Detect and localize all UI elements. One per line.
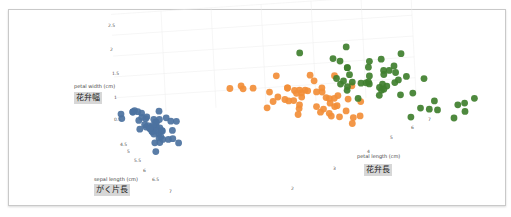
data-point-versicolor[interactable] (311, 77, 318, 84)
data-point-setosa[interactable] (158, 127, 165, 134)
data-point-versicolor[interactable] (250, 85, 257, 92)
data-point-versicolor[interactable] (345, 96, 352, 103)
data-point-setosa[interactable] (129, 109, 136, 116)
data-point-virginica[interactable] (392, 69, 399, 76)
data-point-versicolor[interactable] (273, 72, 280, 79)
gridline-y-5 (411, 0, 416, 94)
data-point-versicolor[interactable] (296, 101, 303, 108)
y-tick-label: 7 (428, 117, 431, 122)
data-point-setosa[interactable] (169, 135, 176, 142)
y-axis-label: petal length (cm) (357, 153, 400, 160)
data-point-versicolor[interactable] (350, 114, 357, 121)
data-point-setosa[interactable] (118, 115, 125, 122)
data-point-virginica[interactable] (403, 73, 410, 80)
data-point-versicolor[interactable] (331, 103, 338, 110)
data-point-versicolor[interactable] (313, 103, 320, 110)
data-point-virginica[interactable] (378, 56, 385, 63)
data-point-virginica[interactable] (397, 91, 404, 98)
data-point-versicolor[interactable] (290, 97, 297, 104)
x-tick-label: 4.5 (120, 142, 127, 147)
data-point-virginica[interactable] (296, 50, 303, 57)
data-point-versicolor[interactable] (336, 113, 343, 120)
data-point-virginica[interactable] (398, 50, 405, 57)
scatter-3d-plot[interactable]: 0.511.522.54.555.566.57234567 petal widt… (0, 0, 511, 217)
data-point-virginica[interactable] (366, 73, 373, 80)
data-point-virginica[interactable] (461, 100, 468, 107)
data-point-virginica[interactable] (333, 75, 340, 82)
data-point-setosa[interactable] (156, 108, 163, 115)
data-point-virginica[interactable] (391, 79, 398, 86)
data-point-virginica[interactable] (451, 115, 458, 122)
data-point-virginica[interactable] (366, 58, 373, 65)
data-point-setosa[interactable] (152, 148, 159, 155)
x-axis-label: sepal length (cm) (94, 176, 138, 183)
data-point-virginica[interactable] (337, 58, 344, 65)
gridline-y-1 (211, 8, 216, 108)
x-tick-label: 7 (169, 189, 172, 194)
y-axis-label-ja: 花弁長 (364, 164, 392, 176)
data-point-setosa[interactable] (151, 139, 158, 146)
gridline-y-2 (261, 4, 266, 104)
z-tick-label: 2.5 (108, 23, 115, 28)
data-point-versicolor[interactable] (227, 85, 234, 92)
gridline-y-3 (311, 1, 316, 101)
data-point-versicolor[interactable] (240, 85, 247, 92)
data-point-versicolor[interactable] (320, 106, 327, 113)
z-tick-label: 1 (114, 95, 117, 100)
series-setosa (118, 107, 182, 155)
data-point-virginica[interactable] (380, 86, 387, 93)
data-point-virginica[interactable] (355, 95, 362, 102)
data-point-virginica[interactable] (349, 79, 356, 86)
data-point-versicolor[interactable] (326, 95, 333, 102)
data-point-setosa[interactable] (146, 125, 153, 132)
data-point-virginica[interactable] (340, 78, 347, 85)
data-point-versicolor[interactable] (343, 108, 350, 115)
data-point-versicolor[interactable] (307, 72, 314, 79)
z-axis-label-ja: 花弁幅 (74, 92, 102, 104)
y-tick-label: 6 (411, 125, 414, 130)
data-point-versicolor[interactable] (357, 113, 364, 120)
y-tick-label: 2 (291, 186, 294, 191)
data-point-virginica[interactable] (434, 107, 441, 114)
data-point-versicolor[interactable] (266, 89, 273, 96)
data-point-virginica[interactable] (409, 90, 416, 97)
data-point-virginica[interactable] (391, 63, 398, 70)
x-tick-label: 5 (127, 149, 130, 154)
data-point-virginica[interactable] (454, 101, 461, 108)
data-point-virginica[interactable] (346, 71, 353, 78)
data-point-virginica[interactable] (431, 98, 438, 105)
data-point-setosa[interactable] (157, 133, 164, 140)
data-point-setosa[interactable] (138, 114, 145, 121)
z-tick-label: 1.5 (112, 71, 119, 76)
gridline-y-0 (161, 11, 166, 111)
z-tick-label: 2 (110, 47, 113, 52)
data-point-versicolor[interactable] (326, 110, 333, 117)
x-tick-label: 6 (143, 168, 146, 173)
data-point-versicolor[interactable] (270, 98, 277, 105)
data-point-versicolor[interactable] (284, 85, 291, 92)
data-point-virginica[interactable] (344, 64, 351, 71)
data-point-versicolor[interactable] (264, 104, 271, 111)
data-point-virginica[interactable] (363, 79, 370, 86)
data-point-setosa[interactable] (173, 118, 180, 125)
data-point-virginica[interactable] (365, 64, 372, 71)
data-point-virginica[interactable] (408, 114, 415, 121)
data-point-versicolor[interactable] (295, 111, 302, 118)
data-point-virginica[interactable] (471, 95, 478, 102)
data-point-virginica[interactable] (462, 108, 469, 115)
data-point-setosa[interactable] (169, 127, 176, 134)
data-point-virginica[interactable] (421, 75, 428, 82)
data-point-virginica[interactable] (343, 44, 350, 51)
data-point-versicolor[interactable] (293, 90, 300, 97)
data-point-setosa[interactable] (175, 140, 182, 147)
data-point-versicolor[interactable] (304, 87, 311, 94)
x-axis-label-ja: がく片長 (94, 184, 130, 196)
data-point-versicolor[interactable] (349, 120, 356, 127)
data-point-virginica[interactable] (376, 92, 383, 99)
data-point-versicolor[interactable] (319, 84, 326, 91)
x-tick-label: 5.5 (134, 158, 141, 163)
data-point-virginica[interactable] (330, 55, 337, 62)
x-tick-label: 6.5 (152, 177, 159, 182)
data-point-virginica[interactable] (426, 106, 433, 113)
data-point-virginica[interactable] (417, 105, 424, 112)
